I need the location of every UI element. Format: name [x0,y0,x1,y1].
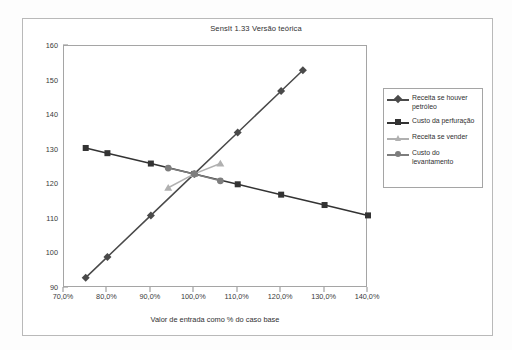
data-point-marker [148,161,154,167]
x-axis-tick-label: 70,0% [53,292,74,301]
chart-series-canvas [64,46,368,288]
data-point-marker [164,184,172,191]
data-point-marker [365,212,371,218]
legend-item-label: Custo do levantamento [412,149,478,166]
legend-item[interactable]: Custo do levantamento [387,149,478,166]
data-point-marker [165,165,172,172]
plot-area [63,45,367,287]
data-point-marker [235,181,241,187]
x-axis-tick-label: 90,0% [139,292,160,301]
y-axis-tick-label: 140 [46,110,58,119]
x-axis-tick-label: 130,0% [311,292,336,301]
x-axis-tick-label: 140,0% [355,292,380,301]
data-point-marker [216,160,224,167]
legend-triangle-icon [387,134,409,143]
data-point-marker [83,145,89,151]
data-point-marker [322,202,328,208]
x-axis-title: Valor de entrada como % do caso base [63,315,367,324]
legend-item[interactable]: Receita se houver petróleo [387,94,478,111]
series-square [83,145,371,218]
legend-square-icon [387,118,409,127]
chart-title: SensIt 1.33 Versão teórica [0,24,512,33]
data-point-marker [278,192,284,198]
x-axis-tick-label: 120,0% [268,292,293,301]
legend-circle-icon [387,150,409,159]
y-axis-tick-label: 110 [46,213,58,222]
y-axis-tick-label: 150 [46,75,58,84]
legend-item-label: Receita se vender [412,133,468,142]
data-point-marker [191,171,198,178]
x-axis-tick-label: 110,0% [225,292,249,301]
y-axis-tick-label: 100 [46,248,58,257]
x-axis-tick-labels: 70,0%80,0%90,0%100,0%110,0%120,0%130,0%1… [63,292,367,306]
y-axis-tick-label: 160 [46,41,58,50]
y-axis-tick-label: 130 [46,144,58,153]
legend-item[interactable]: Custo da perfuração [387,117,478,127]
y-axis-tick-label: 90 [50,283,58,292]
legend-item-label: Custo da perfuração [412,117,474,126]
y-axis-tick-label: 120 [46,179,58,188]
legend-diamond-icon [387,95,409,104]
y-axis-tick-labels: 90100110120130140150160 [24,45,58,287]
data-point-marker [104,150,110,156]
x-axis-tick-label: 80,0% [96,292,117,301]
chart-figure: SensIt 1.33 Versão teórica 9010011012013… [0,0,512,350]
x-axis-tick-label: 100,0% [181,292,206,301]
data-point-marker [217,177,224,184]
legend-item-label: Receita se houver petróleo [412,94,478,111]
legend-item[interactable]: Receita se vender [387,133,478,143]
series-circle [165,165,224,185]
chart-legend: Receita se houver petróleoCusto da perfu… [383,88,483,188]
